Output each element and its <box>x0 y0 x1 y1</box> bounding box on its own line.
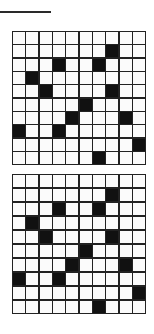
empty-cell <box>66 152 78 164</box>
empty-cell <box>13 72 25 84</box>
empty-cell <box>106 139 118 151</box>
empty-cell <box>66 85 78 97</box>
filled-cell <box>93 59 105 71</box>
empty-cell <box>13 152 25 164</box>
empty-cell <box>133 112 145 124</box>
empty-cell <box>53 189 65 201</box>
filled-cell <box>13 125 25 137</box>
empty-cell <box>26 139 38 151</box>
filled-cell <box>26 72 38 84</box>
empty-cell <box>80 72 92 84</box>
filled-cell <box>120 112 132 124</box>
empty-cell <box>40 139 52 151</box>
header-rule <box>0 11 51 13</box>
empty-cell <box>13 85 25 97</box>
empty-cell <box>106 245 118 257</box>
empty-cell <box>106 99 118 111</box>
empty-cell <box>26 45 38 57</box>
empty-cell <box>66 59 78 71</box>
empty-cell <box>80 259 92 271</box>
empty-cell <box>120 287 132 299</box>
empty-cell <box>93 125 105 137</box>
empty-cell <box>80 85 92 97</box>
empty-cell <box>120 32 132 44</box>
empty-cell <box>80 231 92 243</box>
empty-cell <box>120 85 132 97</box>
empty-cell <box>93 99 105 111</box>
empty-cell <box>133 273 145 285</box>
empty-cell <box>13 245 25 257</box>
empty-cell <box>80 273 92 285</box>
empty-cell <box>80 217 92 229</box>
filled-cell <box>53 203 65 215</box>
empty-cell <box>106 287 118 299</box>
empty-cell <box>66 139 78 151</box>
empty-cell <box>53 217 65 229</box>
empty-cell <box>133 59 145 71</box>
empty-cell <box>120 175 132 187</box>
empty-cell <box>40 99 52 111</box>
empty-cell <box>53 301 65 313</box>
empty-cell <box>120 231 132 243</box>
pattern-grid-1 <box>12 31 146 165</box>
empty-cell <box>106 112 118 124</box>
empty-cell <box>26 112 38 124</box>
filled-cell <box>106 85 118 97</box>
empty-cell <box>106 203 118 215</box>
empty-cell <box>53 85 65 97</box>
empty-cell <box>93 112 105 124</box>
empty-cell <box>120 45 132 57</box>
pattern-grid-2 <box>12 174 146 314</box>
empty-cell <box>13 112 25 124</box>
empty-cell <box>120 203 132 215</box>
empty-cell <box>66 32 78 44</box>
empty-cell <box>40 112 52 124</box>
filled-cell <box>133 287 145 299</box>
empty-cell <box>40 152 52 164</box>
empty-cell <box>120 217 132 229</box>
empty-cell <box>133 175 145 187</box>
empty-cell <box>133 32 145 44</box>
empty-cell <box>66 72 78 84</box>
empty-cell <box>53 152 65 164</box>
empty-cell <box>120 189 132 201</box>
empty-cell <box>40 203 52 215</box>
empty-cell <box>133 125 145 137</box>
empty-cell <box>40 287 52 299</box>
empty-cell <box>80 301 92 313</box>
empty-cell <box>93 231 105 243</box>
empty-cell <box>13 217 25 229</box>
empty-cell <box>66 245 78 257</box>
empty-cell <box>66 125 78 137</box>
empty-cell <box>133 301 145 313</box>
filled-cell <box>80 99 92 111</box>
filled-cell <box>53 125 65 137</box>
empty-cell <box>93 273 105 285</box>
empty-cell <box>120 273 132 285</box>
empty-cell <box>133 72 145 84</box>
empty-cell <box>13 203 25 215</box>
empty-cell <box>80 59 92 71</box>
empty-cell <box>80 189 92 201</box>
empty-cell <box>120 301 132 313</box>
empty-cell <box>66 45 78 57</box>
filled-cell <box>40 231 52 243</box>
empty-cell <box>106 152 118 164</box>
empty-cell <box>13 99 25 111</box>
empty-cell <box>133 203 145 215</box>
empty-cell <box>93 72 105 84</box>
filled-cell <box>93 152 105 164</box>
empty-cell <box>120 59 132 71</box>
empty-cell <box>40 175 52 187</box>
empty-cell <box>66 217 78 229</box>
empty-cell <box>80 112 92 124</box>
empty-cell <box>93 259 105 271</box>
empty-cell <box>26 287 38 299</box>
empty-cell <box>80 152 92 164</box>
empty-cell <box>80 287 92 299</box>
empty-cell <box>133 85 145 97</box>
empty-cell <box>80 203 92 215</box>
empty-cell <box>40 259 52 271</box>
empty-cell <box>133 259 145 271</box>
empty-cell <box>13 259 25 271</box>
